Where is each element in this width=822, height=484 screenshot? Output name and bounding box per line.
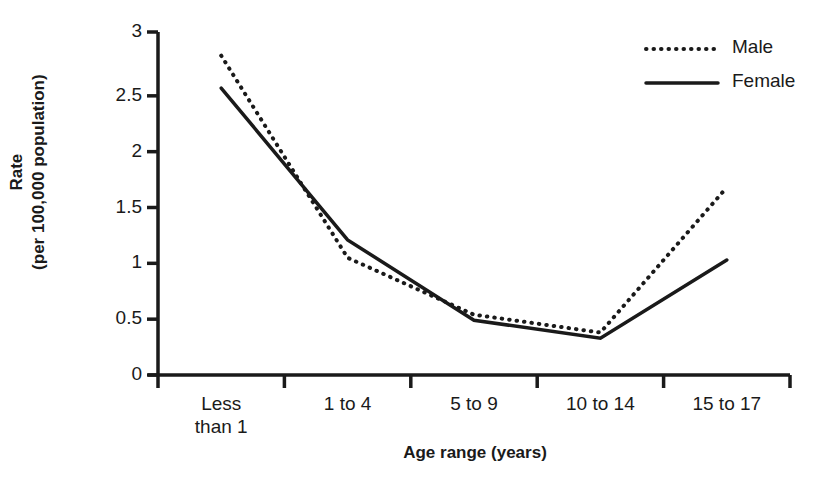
y-tick-label: 1 [60,251,142,273]
y-tick-label: 0 [60,363,142,385]
legend-label-female: Female [732,70,795,92]
y-tick-label: 0.5 [60,307,142,329]
x-tick-label: Less than 1 [158,393,284,439]
y-tick-label: 2 [60,140,142,162]
x-tick-label: 5 to 9 [411,393,537,416]
axes [147,32,790,388]
y-tick-label: 1.5 [60,196,142,218]
y-tick-label: 2.5 [60,84,142,106]
legend-marks [646,49,718,83]
x-tick-label: 1 to 4 [284,393,410,416]
x-tick-label: 15 to 17 [664,393,790,416]
data-series [221,56,727,339]
y-tick-label: 3 [60,20,142,42]
y-axis-title: Rate (per 100,000 population) [6,72,50,272]
line-chart: 32.521.510.50 Less than 11 to 45 to 910 … [0,0,822,484]
x-tick-label: 10 to 14 [537,393,663,416]
x-axis-title: Age range (years) [160,443,790,463]
legend-label-male: Male [732,36,773,58]
